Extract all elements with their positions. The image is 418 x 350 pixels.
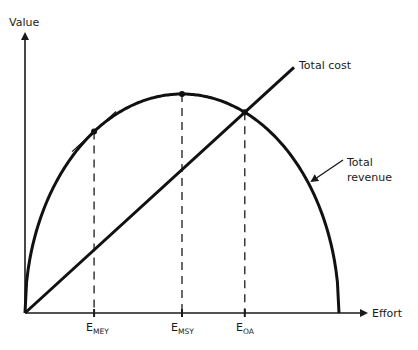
e-msy-label: EMSY xyxy=(171,321,194,336)
total-cost-line xyxy=(25,67,294,313)
point-msy xyxy=(179,91,185,97)
e-oa-label: EOA xyxy=(236,321,255,336)
total-cost-label: Total cost xyxy=(298,59,352,72)
y-axis-label: Value xyxy=(9,16,39,29)
x-axis-label: Effort xyxy=(372,307,403,320)
total-revenue-label-line2: revenue xyxy=(347,171,392,184)
e-mey-label: EMEY xyxy=(86,321,109,336)
point-mey xyxy=(91,129,97,135)
fisheries-economics-diagram: Value Effort Total cost Total revenue EM… xyxy=(0,0,418,350)
total-revenue-label-line1: Total xyxy=(346,156,373,169)
point-oa xyxy=(242,109,248,115)
total-revenue-pointer-arrow xyxy=(312,160,343,181)
marker-dashed-lines xyxy=(94,94,245,313)
